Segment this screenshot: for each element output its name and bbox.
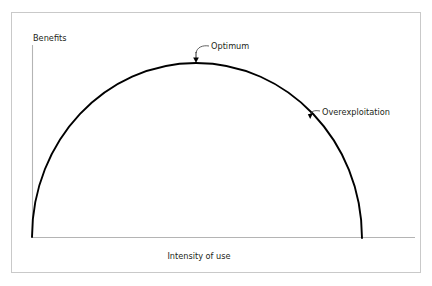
figure-root: Benefits Intensity of use Optimum Overex…: [0, 0, 432, 286]
x-axis-label: Intensity of use: [167, 251, 230, 261]
benefits-intensity-curve-figure: Benefits Intensity of use Optimum Overex…: [0, 0, 432, 286]
overexploitation-label: Overexploitation: [322, 107, 390, 117]
y-axis-label: Benefits: [33, 33, 67, 43]
optimum-label: Optimum: [211, 41, 249, 51]
